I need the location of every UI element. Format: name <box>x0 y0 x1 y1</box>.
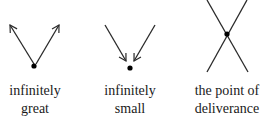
label-line-1: the point of <box>177 82 272 100</box>
arrow-up-left <box>10 25 34 64</box>
label-line-1: infinitely <box>0 82 85 100</box>
arrow-down-right <box>105 25 126 61</box>
label-point-of-deliverance: the point of deliverance <box>177 82 272 118</box>
label-line-2: great <box>0 100 85 118</box>
label-infinitely-great: infinitely great <box>0 82 85 118</box>
intersection-dot <box>224 31 229 36</box>
origin-dot <box>31 63 36 68</box>
label-line-2: deliverance <box>177 100 272 118</box>
point-of-deliverance-figure <box>207 0 248 72</box>
infinitely-small-figure <box>105 25 155 71</box>
label-infinitely-small: infinitely small <box>80 82 180 118</box>
arrow-up-right <box>36 25 59 64</box>
label-line-1: infinitely <box>80 82 180 100</box>
target-dot <box>127 65 132 70</box>
label-line-2: small <box>80 100 180 118</box>
infinitely-great-figure <box>10 25 59 69</box>
arrow-down-left <box>134 25 155 61</box>
